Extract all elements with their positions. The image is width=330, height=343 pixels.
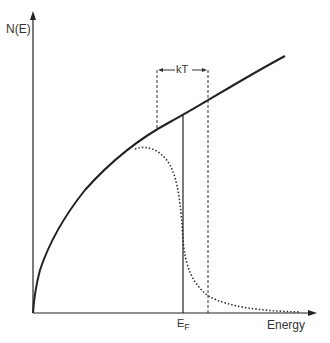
occupied-states-curve bbox=[135, 147, 300, 312]
x-axis-label: Energy bbox=[267, 318, 305, 332]
kt-arrowhead-right-icon bbox=[202, 68, 207, 72]
density-of-states-diagram bbox=[0, 0, 330, 343]
kt-arrowhead-left-icon bbox=[158, 68, 163, 72]
y-axis-label: N(E) bbox=[6, 22, 31, 36]
x-axis-arrow-icon bbox=[308, 310, 317, 316]
fermi-level-label: EF bbox=[177, 317, 190, 332]
kt-label: kT bbox=[176, 63, 188, 75]
y-axis-arrow-icon bbox=[30, 11, 36, 20]
dos-curve bbox=[33, 56, 285, 313]
fermi-sub: F bbox=[184, 322, 190, 332]
